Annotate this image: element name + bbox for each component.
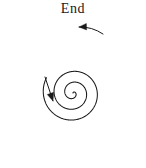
outer-direction-arrow: [79, 23, 103, 34]
end-label: End: [0, 1, 146, 16]
spiral-canvas: [0, 0, 146, 168]
spiral-figure: End: [0, 0, 146, 168]
inner-arrow-head-icon: [47, 92, 53, 101]
outer-arrow-head-icon: [79, 23, 87, 30]
inner-direction-arrow: [45, 77, 54, 101]
